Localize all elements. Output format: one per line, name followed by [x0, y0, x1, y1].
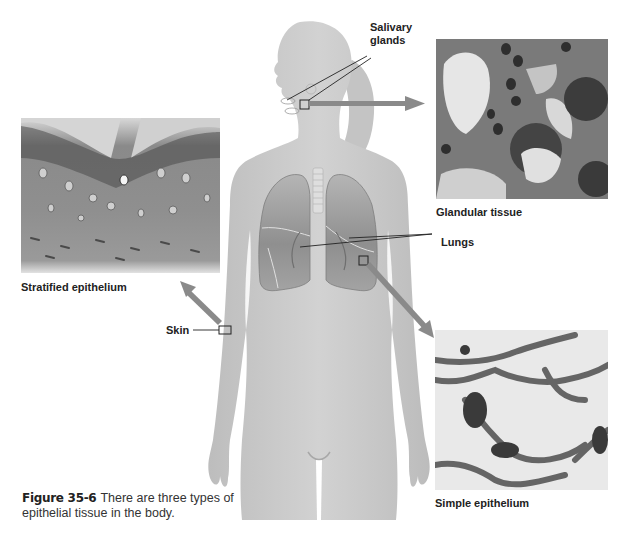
arrow-to-stratified [180, 281, 222, 325]
body-silhouette [208, 21, 429, 520]
simple-epithelium-micrograph [435, 330, 608, 490]
salivary-glands-label: Salivary glands [370, 21, 412, 47]
stratified-epithelium-caption: Stratified epithelium [21, 281, 127, 293]
trachea [313, 168, 323, 213]
figure-caption: Figure 35-6There are three types of epit… [22, 491, 242, 521]
glandular-tissue-caption: Glandular tissue [436, 206, 522, 218]
stratified-epithelium-micrograph [21, 118, 220, 273]
glandular-tissue-micrograph [436, 39, 608, 199]
figure-number: Figure 35-6 [22, 491, 96, 505]
lungs-label: Lungs [441, 236, 474, 249]
skin-label: Skin [166, 324, 189, 337]
simple-epithelium-caption: Simple epithelium [435, 497, 529, 509]
